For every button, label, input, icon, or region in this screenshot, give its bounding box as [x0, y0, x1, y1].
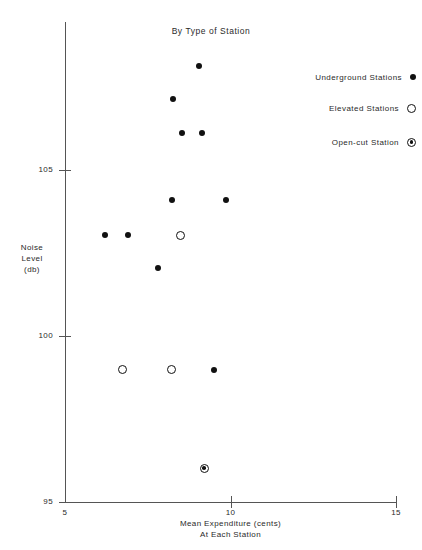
y-axis-label-line3: (db) [8, 264, 56, 275]
legend-item-underground[interactable]: Underground Stations [315, 70, 416, 84]
x-tick-label-10: 10 [211, 508, 251, 517]
legend-label: Elevated Stations [329, 104, 399, 113]
data-point-underground [125, 232, 131, 238]
x-tick-10 [231, 496, 232, 508]
chart-title: By Type of Station [0, 26, 422, 36]
data-point-elevated [118, 365, 127, 374]
legend-label: Open-cut Station [332, 138, 399, 147]
data-point-elevated [176, 231, 185, 240]
legend-item-elevated[interactable]: Elevated Stations [329, 101, 416, 115]
y-tick-label-105: 105 [6, 165, 53, 174]
x-tick-label-5: 5 [45, 508, 85, 517]
x-axis-label-line2: At Each Station [65, 529, 396, 540]
legend-item-opencut[interactable]: Open-cut Station [332, 135, 416, 149]
x-axis-label: Mean Expenditure (cents) At Each Station [65, 518, 396, 540]
y-axis-label-line2: Level [8, 253, 56, 264]
scatter-plot-page: By Type of Station 9510010551015 Noise L… [0, 0, 422, 550]
data-point-underground [170, 96, 176, 102]
x-tick-label-15: 15 [376, 508, 416, 517]
data-point-underground [223, 197, 229, 203]
y-axis-line [65, 22, 66, 503]
y-tick-label-95: 95 [6, 497, 53, 506]
data-point-underground [169, 197, 175, 203]
y-tick-95 [59, 502, 71, 503]
x-axis-label-line1: Mean Expenditure (cents) [65, 518, 396, 529]
data-point-elevated [167, 365, 176, 374]
y-tick-label-100: 100 [6, 331, 53, 340]
legend-label: Underground Stations [315, 73, 402, 82]
x-tick-15 [396, 496, 397, 508]
data-point-underground [102, 232, 108, 238]
data-point-underground [211, 367, 217, 373]
data-point-underground [179, 130, 185, 136]
y-tick-100 [59, 336, 71, 337]
y-axis-label-line1: Noise [8, 242, 56, 253]
data-point-underground [155, 265, 161, 271]
legend-marker-filled-circle-icon [410, 74, 416, 80]
data-point-underground [196, 63, 202, 69]
y-axis-label: Noise Level (db) [8, 242, 56, 275]
data-point-opencut [200, 464, 209, 473]
legend-marker-bullseye-icon [407, 138, 416, 147]
y-tick-105 [59, 170, 71, 171]
legend-marker-open-circle-icon [407, 104, 416, 113]
data-point-underground [199, 130, 205, 136]
